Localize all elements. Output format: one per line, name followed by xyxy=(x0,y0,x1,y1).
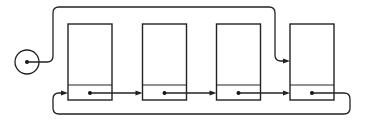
list-node xyxy=(217,24,261,100)
list-node xyxy=(68,24,112,100)
head-pointer-arrowhead xyxy=(283,58,290,63)
list-node xyxy=(290,24,334,100)
next-pointer-arrowhead xyxy=(283,90,290,95)
nodes-layer xyxy=(68,24,334,100)
node-box xyxy=(68,24,112,100)
next-pointer-arrowhead xyxy=(136,90,143,95)
node-box xyxy=(143,24,187,100)
circular-return-arrowhead xyxy=(61,90,68,95)
node-box xyxy=(217,24,261,100)
list-node xyxy=(143,24,187,100)
next-pointer-arrowhead xyxy=(210,90,217,95)
node-box xyxy=(290,24,334,100)
linked-list-diagram xyxy=(0,0,366,121)
